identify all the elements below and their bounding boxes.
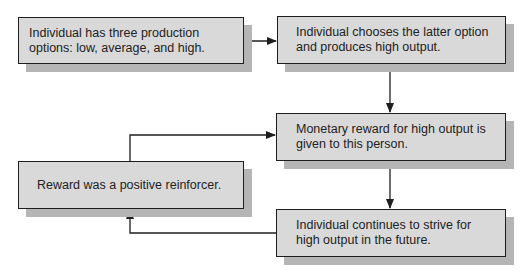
node-text: Reward was a positive reinforcer.	[37, 178, 221, 193]
node-positive-reinforcer: Reward was a positive reinforcer.	[18, 161, 244, 209]
node-chooses-high-output: Individual chooses the latter option and…	[277, 16, 506, 64]
node-monetary-reward: Monetary reward for high output is given…	[276, 113, 506, 161]
node-text: Monetary reward for high output is given…	[296, 122, 495, 152]
node-text: Individual continues to strive for high …	[296, 218, 495, 248]
node-continues-striving: Individual continues to strive for high …	[276, 209, 506, 257]
node-text: Individual has three production options:…	[29, 26, 233, 56]
node-text: Individual chooses the latter option and…	[296, 25, 495, 55]
node-production-options: Individual has three production options:…	[18, 17, 244, 64]
arrow-reinforcer-to-reward	[130, 135, 275, 161]
